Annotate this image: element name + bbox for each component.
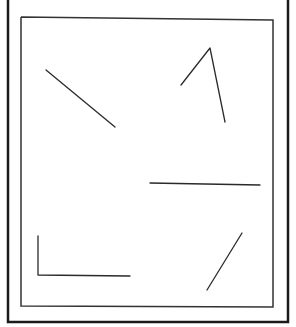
horizontal-line-middle-right bbox=[150, 183, 260, 185]
inner-frame-border bbox=[21, 17, 273, 307]
right-angle-lower-left bbox=[38, 236, 130, 276]
diagonal-line-upper-left bbox=[46, 70, 115, 127]
figure-canvas bbox=[0, 0, 296, 327]
diagonal-line-lower-right bbox=[207, 233, 242, 290]
angle-upper-right bbox=[181, 48, 225, 122]
outer-frame-border bbox=[8, 0, 288, 322]
line-figure bbox=[0, 0, 296, 327]
